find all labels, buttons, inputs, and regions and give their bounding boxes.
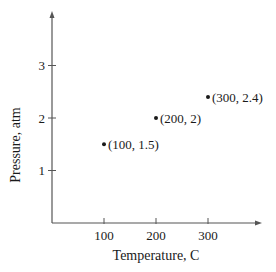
data-point-label: (100, 1.5) — [108, 137, 159, 152]
scatter-chart: 100200300 123 (100, 1.5)(200, 2)(300, 2.… — [0, 0, 276, 272]
x-axis-ticks: 100200300 — [94, 218, 218, 243]
data-point — [154, 116, 158, 120]
data-point-label: (200, 2) — [160, 111, 201, 126]
x-tick-label: 300 — [198, 228, 218, 243]
data-point — [102, 142, 106, 146]
x-tick-label: 200 — [146, 228, 166, 243]
data-points: (100, 1.5)(200, 2)(300, 2.4) — [102, 90, 263, 152]
y-axis-label: Pressure, atm — [8, 107, 23, 183]
data-point — [206, 95, 210, 99]
y-tick-label: 2 — [39, 111, 46, 126]
y-axis-ticks: 123 — [39, 58, 57, 178]
y-axis-arrow-icon — [50, 11, 55, 18]
x-axis-arrow-icon — [255, 221, 262, 226]
y-tick-label: 3 — [39, 58, 46, 73]
x-tick-label: 100 — [94, 228, 114, 243]
x-axis-label: Temperature, C — [113, 248, 200, 263]
y-tick-label: 1 — [39, 163, 46, 178]
data-point-label: (300, 2.4) — [212, 90, 263, 105]
